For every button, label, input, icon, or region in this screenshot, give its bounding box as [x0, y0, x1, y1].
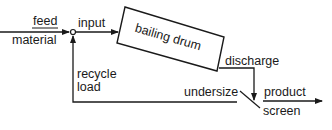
product-label: product [264, 86, 306, 99]
screen-icon [240, 91, 260, 108]
load-label: load [77, 81, 101, 94]
junction-node [71, 30, 76, 35]
feed-label: feed [33, 15, 57, 28]
input-label: input [78, 17, 105, 30]
recycle-label: recycle [77, 68, 117, 81]
material-label: material [12, 34, 56, 47]
undersize-label: undersize [184, 86, 238, 99]
discharge-label: discharge [225, 55, 279, 68]
screen-label: screen [263, 105, 301, 118]
